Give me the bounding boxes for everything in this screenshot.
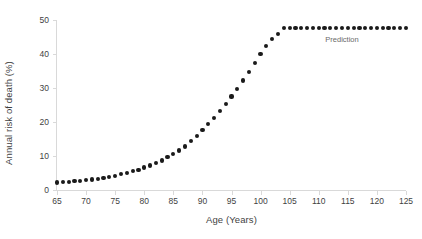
x-tick-label-text: 125 bbox=[391, 196, 421, 207]
x-tick-label: 80 bbox=[129, 196, 159, 207]
y-tick-label-text: 40 bbox=[29, 49, 49, 59]
x-tick-label-text: 75 bbox=[100, 196, 130, 207]
data-point bbox=[177, 148, 181, 152]
x-tick-mark bbox=[377, 191, 378, 195]
x-tick-label-text: 110 bbox=[304, 196, 334, 207]
data-point bbox=[72, 179, 76, 183]
data-point bbox=[107, 175, 111, 179]
x-tick-label-text: 120 bbox=[362, 196, 392, 207]
data-point bbox=[218, 109, 222, 113]
data-point bbox=[404, 26, 408, 30]
x-tick-mark bbox=[319, 191, 320, 195]
data-point bbox=[357, 26, 361, 30]
data-point bbox=[276, 32, 280, 36]
data-point bbox=[288, 26, 292, 30]
plot-area: 01020304050 6570758085909510010511011512… bbox=[57, 20, 406, 190]
y-tick-mark bbox=[53, 20, 57, 21]
y-tick-label-text: 50 bbox=[29, 15, 49, 25]
x-tick-label: 120 bbox=[362, 196, 392, 207]
x-tick-label: 70 bbox=[71, 196, 101, 207]
y-tick-mark bbox=[53, 88, 57, 89]
data-point bbox=[258, 52, 262, 56]
data-point bbox=[392, 26, 396, 30]
data-point bbox=[55, 180, 59, 184]
prediction-annotation: Prediction bbox=[325, 35, 358, 44]
y-tick-label: 40 bbox=[29, 49, 49, 59]
x-tick-label-text: 80 bbox=[129, 196, 159, 207]
data-point bbox=[386, 26, 390, 30]
y-tick-mark bbox=[53, 122, 57, 123]
data-point bbox=[247, 70, 251, 74]
data-point bbox=[293, 26, 297, 30]
y-tick-mark bbox=[53, 156, 57, 157]
data-point bbox=[346, 26, 350, 30]
y-tick-label-text: 10 bbox=[29, 151, 49, 161]
x-tick-label-text: 90 bbox=[187, 196, 217, 207]
data-point bbox=[90, 177, 94, 181]
data-point bbox=[253, 61, 257, 65]
data-point bbox=[96, 177, 100, 181]
data-point bbox=[189, 139, 193, 143]
chart-figure: Annual risk of death (%) 01020304050 657… bbox=[0, 0, 422, 239]
data-point bbox=[352, 26, 356, 30]
y-tick-label: 50 bbox=[29, 15, 49, 25]
y-tick-mark bbox=[53, 54, 57, 55]
y-axis-line bbox=[56, 20, 57, 191]
data-point bbox=[200, 128, 204, 132]
data-point bbox=[229, 94, 233, 98]
x-axis-title: Age (Years) bbox=[57, 214, 406, 225]
data-point bbox=[381, 26, 385, 30]
data-point bbox=[322, 26, 326, 30]
data-point bbox=[154, 161, 158, 165]
data-point bbox=[119, 172, 123, 176]
x-tick-mark bbox=[144, 191, 145, 195]
data-point bbox=[78, 179, 82, 183]
data-point bbox=[311, 26, 315, 30]
y-tick-label-text: 20 bbox=[29, 117, 49, 127]
x-tick-label: 65 bbox=[42, 196, 72, 207]
y-tick-label: 30 bbox=[29, 83, 49, 93]
data-point bbox=[142, 165, 146, 169]
x-tick-label: 105 bbox=[275, 196, 305, 207]
y-tick-label-text: 0 bbox=[29, 185, 49, 195]
data-point bbox=[101, 176, 105, 180]
data-point bbox=[183, 144, 187, 148]
data-point bbox=[235, 87, 239, 91]
data-point bbox=[212, 116, 216, 120]
x-tick-label-text: 70 bbox=[71, 196, 101, 207]
x-tick-mark bbox=[86, 191, 87, 195]
data-point bbox=[398, 26, 402, 30]
data-point bbox=[317, 26, 321, 30]
data-point bbox=[148, 163, 152, 167]
data-point bbox=[328, 26, 332, 30]
data-point bbox=[299, 26, 303, 30]
y-tick-label: 10 bbox=[29, 151, 49, 161]
data-point bbox=[165, 155, 169, 159]
x-tick-label: 90 bbox=[187, 196, 217, 207]
y-axis-title: Annual risk of death (%) bbox=[0, 13, 18, 213]
data-point bbox=[84, 178, 88, 182]
data-point bbox=[340, 26, 344, 30]
x-tick-label: 110 bbox=[304, 196, 334, 207]
data-point bbox=[282, 26, 286, 30]
x-tick-label-text: 65 bbox=[42, 196, 72, 207]
x-tick-mark bbox=[57, 191, 58, 195]
data-point bbox=[224, 102, 228, 106]
x-tick-mark bbox=[348, 191, 349, 195]
data-point bbox=[61, 180, 65, 184]
x-tick-mark bbox=[232, 191, 233, 195]
x-tick-mark bbox=[115, 191, 116, 195]
x-tick-label: 95 bbox=[217, 196, 247, 207]
data-point bbox=[369, 26, 373, 30]
x-tick-label: 115 bbox=[333, 196, 363, 207]
x-tick-label: 125 bbox=[391, 196, 421, 207]
x-tick-label-text: 100 bbox=[246, 196, 276, 207]
data-point bbox=[195, 134, 199, 138]
x-tick-label-text: 115 bbox=[333, 196, 363, 207]
data-point bbox=[131, 169, 135, 173]
y-tick-label-text: 30 bbox=[29, 83, 49, 93]
data-point bbox=[160, 158, 164, 162]
data-point bbox=[305, 26, 309, 30]
x-tick-mark bbox=[173, 191, 174, 195]
x-tick-mark bbox=[406, 191, 407, 195]
